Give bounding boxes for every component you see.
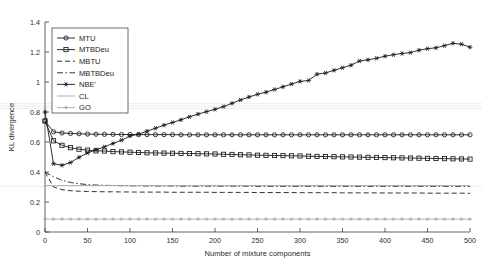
y-tick-label: 0.8 (30, 108, 40, 117)
series-mbtu (45, 172, 470, 193)
series-mtbdeu (43, 119, 472, 161)
y-axis-label: KL divergence (7, 103, 16, 151)
x-tick-label: 250 (252, 236, 264, 245)
y-tick-label: 0.2 (30, 198, 40, 207)
y-tick-label: 1.2 (30, 48, 40, 57)
y-tick-label: 0.4 (30, 168, 40, 177)
legend-label-cl: CL (79, 92, 89, 101)
x-tick-label: 200 (209, 236, 221, 245)
x-tick-label: 500 (464, 236, 476, 245)
series-go (43, 218, 472, 221)
legend-label-go: GO (79, 103, 91, 112)
series-mbtbdeu (45, 172, 470, 186)
chart-figure: 00.20.40.60.811.21.405010015020025030035… (0, 0, 482, 261)
y-tick-label: 0.6 (30, 138, 40, 147)
series-mtu (43, 119, 472, 137)
legend-label-mbtbdeu: MBTBDeu (79, 69, 114, 78)
kl-divergence-line-chart: 00.20.40.60.811.21.405010015020025030035… (0, 0, 482, 261)
x-axis-label: Number of mixture components (205, 249, 311, 258)
x-tick-label: 50 (84, 236, 92, 245)
legend-label-mtu: MTU (79, 34, 95, 43)
chart-legend: MTUMTBDeuMBTUMBTBDeuNBE'CLGO (52, 28, 128, 113)
y-tick-label: 0 (36, 228, 40, 237)
x-tick-label: 150 (167, 236, 179, 245)
x-tick-label: 400 (379, 236, 391, 245)
legend-label-mtbdeu: MTBDeu (79, 45, 109, 54)
series-line (45, 172, 470, 193)
x-tick-label: 0 (43, 236, 47, 245)
series-line (45, 172, 470, 186)
x-tick-label: 450 (422, 236, 434, 245)
x-tick-label: 300 (294, 236, 306, 245)
y-tick-label: 1.4 (30, 18, 40, 27)
y-tick-label: 1 (36, 78, 40, 87)
legend-label-nbe: NBE' (79, 80, 97, 89)
legend-label-mbtu: MBTU (79, 57, 101, 66)
x-tick-label: 100 (124, 236, 136, 245)
x-tick-label: 350 (337, 236, 349, 245)
